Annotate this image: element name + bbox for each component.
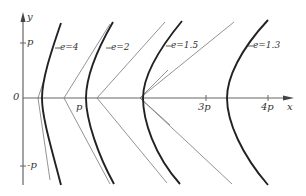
origin-label: 0 (13, 92, 19, 102)
diagram-canvas (0, 0, 306, 196)
curve-label-e1_5: e=1.5 (171, 41, 198, 50)
x-tick-label-p: p (76, 102, 82, 112)
y-tick-label-neg-p: -p (27, 160, 37, 170)
hyperbola-diagram: y p -p 0 p 3p 4p x e=4 e=2 e=1.5 e=1.3 (0, 0, 306, 196)
x-tick-label-4p: 4p (261, 102, 274, 112)
label-leaders (55, 46, 253, 48)
x-tick-label-3p: 3p (198, 102, 211, 112)
x-axis-arrow-icon (283, 96, 294, 101)
curve-label-e4: e=4 (60, 43, 79, 52)
curve-label-e1_3: e=1.3 (253, 41, 280, 50)
curve-label-e2: e=2 (111, 43, 130, 52)
x-axis-label: x (287, 102, 293, 112)
y-axis-label: y (27, 12, 33, 22)
asymptote-e4 (38, 80, 50, 180)
y-tick-label-p: p (27, 37, 33, 47)
curve-e4 (42, 23, 61, 185)
y-axis-arrow-icon (21, 12, 26, 22)
asymptote-e1_5 (97, 22, 167, 183)
curve-e2 (86, 22, 114, 184)
